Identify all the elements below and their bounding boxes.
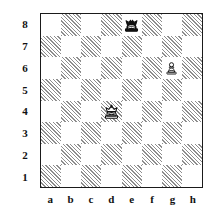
- rank-label-column: 8 7 6 5 4 3 2 1: [16, 13, 34, 188]
- white-king-icon: [101, 101, 121, 123]
- board-square-e3[interactable]: [122, 122, 142, 144]
- board-square-g5[interactable]: [162, 79, 182, 101]
- board-square-c1[interactable]: [81, 165, 101, 187]
- board-square-d4[interactable]: [101, 101, 121, 123]
- board-square-c6[interactable]: [81, 57, 101, 79]
- board-square-h1[interactable]: [182, 165, 202, 187]
- board-square-d1[interactable]: [101, 165, 121, 187]
- board-square-c3[interactable]: [81, 122, 101, 144]
- rank-label-3: 3: [16, 122, 34, 144]
- board-square-c8[interactable]: [81, 14, 101, 36]
- board-square-f1[interactable]: [142, 165, 162, 187]
- board-square-a6[interactable]: [41, 57, 61, 79]
- board-square-c4[interactable]: [81, 101, 101, 123]
- chess-board: [40, 13, 203, 188]
- white-pawn-icon: [162, 57, 182, 79]
- board-square-f2[interactable]: [142, 144, 162, 166]
- board-square-f5[interactable]: [142, 79, 162, 101]
- board-square-a4[interactable]: [41, 101, 61, 123]
- board-square-f7[interactable]: [142, 36, 162, 58]
- board-square-g6[interactable]: [162, 57, 182, 79]
- file-label-row: a b c d e f g h: [40, 190, 203, 208]
- chess-diagram: 8 7 6 5 4 3 2 1 a b c d e: [0, 0, 219, 211]
- board-square-b1[interactable]: [61, 165, 81, 187]
- board-square-h2[interactable]: [182, 144, 202, 166]
- board-square-d3[interactable]: [101, 122, 121, 144]
- file-label-b: b: [60, 190, 80, 208]
- board-square-e1[interactable]: [122, 165, 142, 187]
- board-square-c7[interactable]: [81, 36, 101, 58]
- file-label-g: g: [162, 190, 182, 208]
- board-square-c5[interactable]: [81, 79, 101, 101]
- file-label-h: h: [183, 190, 203, 208]
- black-king-icon: [122, 14, 142, 36]
- board-square-b2[interactable]: [61, 144, 81, 166]
- board-square-f8[interactable]: [142, 14, 162, 36]
- rank-label-8: 8: [16, 13, 34, 35]
- board-square-h8[interactable]: [182, 14, 202, 36]
- board-square-h5[interactable]: [182, 79, 202, 101]
- board-square-f6[interactable]: [142, 57, 162, 79]
- board-square-d6[interactable]: [101, 57, 121, 79]
- board-square-a1[interactable]: [41, 165, 61, 187]
- file-label-c: c: [81, 190, 101, 208]
- board-square-b3[interactable]: [61, 122, 81, 144]
- board-square-g4[interactable]: [162, 101, 182, 123]
- board-square-b4[interactable]: [61, 101, 81, 123]
- board-square-g1[interactable]: [162, 165, 182, 187]
- file-label-e: e: [122, 190, 142, 208]
- board-square-g7[interactable]: [162, 36, 182, 58]
- rank-label-2: 2: [16, 144, 34, 166]
- board-square-e8[interactable]: [122, 14, 142, 36]
- board-grid: [41, 14, 202, 187]
- board-square-e6[interactable]: [122, 57, 142, 79]
- file-label-f: f: [142, 190, 162, 208]
- board-square-g3[interactable]: [162, 122, 182, 144]
- board-square-b6[interactable]: [61, 57, 81, 79]
- board-square-b8[interactable]: [61, 14, 81, 36]
- board-square-d7[interactable]: [101, 36, 121, 58]
- board-square-e5[interactable]: [122, 79, 142, 101]
- board-square-a5[interactable]: [41, 79, 61, 101]
- board-square-e4[interactable]: [122, 101, 142, 123]
- board-square-d5[interactable]: [101, 79, 121, 101]
- board-square-e7[interactable]: [122, 36, 142, 58]
- file-label-a: a: [40, 190, 60, 208]
- rank-label-1: 1: [16, 166, 34, 188]
- board-square-f3[interactable]: [142, 122, 162, 144]
- board-square-b5[interactable]: [61, 79, 81, 101]
- file-label-d: d: [101, 190, 121, 208]
- board-square-g2[interactable]: [162, 144, 182, 166]
- board-square-h4[interactable]: [182, 101, 202, 123]
- board-square-g8[interactable]: [162, 14, 182, 36]
- board-square-a7[interactable]: [41, 36, 61, 58]
- board-square-a8[interactable]: [41, 14, 61, 36]
- rank-label-6: 6: [16, 57, 34, 79]
- board-square-h6[interactable]: [182, 57, 202, 79]
- board-square-b7[interactable]: [61, 36, 81, 58]
- board-square-d2[interactable]: [101, 144, 121, 166]
- rank-label-5: 5: [16, 79, 34, 101]
- board-square-d8[interactable]: [101, 14, 121, 36]
- rank-label-7: 7: [16, 35, 34, 57]
- board-square-c2[interactable]: [81, 144, 101, 166]
- board-square-e2[interactable]: [122, 144, 142, 166]
- board-square-h3[interactable]: [182, 122, 202, 144]
- board-square-h7[interactable]: [182, 36, 202, 58]
- board-square-a3[interactable]: [41, 122, 61, 144]
- board-square-f4[interactable]: [142, 101, 162, 123]
- board-square-a2[interactable]: [41, 144, 61, 166]
- rank-label-4: 4: [16, 101, 34, 123]
